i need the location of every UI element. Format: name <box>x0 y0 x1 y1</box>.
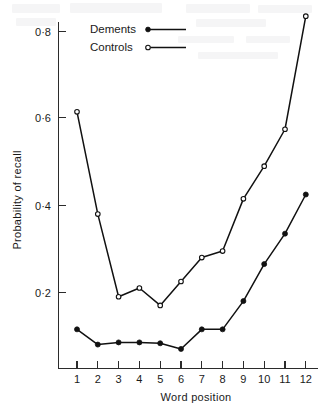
legend: Dements Controls <box>90 23 186 53</box>
y-tick-label-0-6: 0·6 <box>35 112 51 124</box>
data-point-dements-8 <box>220 327 225 332</box>
data-point-controls-3 <box>116 294 121 299</box>
x-tick-label-8: 8 <box>220 373 226 385</box>
data-point-controls-2 <box>96 212 101 217</box>
y-tick-label-0-8: 0·8 <box>35 26 51 38</box>
x-tick-label-7: 7 <box>199 373 205 385</box>
y-axis: 0·8 0·6 0·4 0·2 Probability of recall <box>11 22 66 369</box>
data-point-dements-6 <box>179 346 184 351</box>
x-tick-label-6: 6 <box>178 373 184 385</box>
data-point-controls-9 <box>241 197 246 202</box>
x-tick-label-5: 5 <box>157 373 163 385</box>
series-line-controls <box>77 16 306 305</box>
y-tick-label-0-2: 0·2 <box>35 287 51 299</box>
data-point-dements-7 <box>199 327 204 332</box>
legend-marker-dements-filled-circle-icon <box>146 27 151 32</box>
x-tick-label-11: 11 <box>279 373 290 385</box>
data-point-controls-1 <box>75 110 80 115</box>
legend-label-controls: Controls <box>90 41 133 53</box>
x-axis-title: Word position <box>161 391 232 403</box>
x-tick-label-9: 9 <box>240 373 246 385</box>
x-tick-label-3: 3 <box>116 373 122 385</box>
series-controls <box>75 14 308 308</box>
y-tick-label-0-4: 0·4 <box>35 200 51 212</box>
series-line-dements <box>77 195 306 349</box>
data-point-dements-5 <box>158 341 163 346</box>
figure-container: 0·8 0·6 0·4 0·2 Probability of recall 1 … <box>0 0 325 411</box>
data-point-controls-5 <box>158 303 163 308</box>
data-point-controls-12 <box>304 14 309 19</box>
data-point-dements-10 <box>262 262 267 267</box>
data-point-controls-10 <box>262 164 267 169</box>
data-point-controls-8 <box>220 249 225 254</box>
recall-probability-line-chart: 0·8 0·6 0·4 0·2 Probability of recall 1 … <box>0 0 325 411</box>
y-axis-title: Probability of recall <box>11 150 23 249</box>
x-axis: 1 2 3 4 5 6 7 8 9 10 11 12 Word position <box>59 361 319 403</box>
data-point-controls-7 <box>200 255 205 260</box>
x-tick-label-2: 2 <box>95 373 101 385</box>
data-point-dements-3 <box>116 340 121 345</box>
x-tick-label-1: 1 <box>74 373 80 385</box>
legend-marker-controls-open-circle-icon <box>146 45 151 50</box>
x-tick-label-10: 10 <box>258 373 270 385</box>
legend-label-dements: Dements <box>90 23 136 35</box>
data-point-dements-12 <box>303 192 308 197</box>
data-series-layer <box>75 14 309 352</box>
data-point-dements-9 <box>241 299 246 304</box>
data-point-dements-11 <box>283 231 288 236</box>
series-dements <box>75 192 309 351</box>
data-point-controls-11 <box>283 127 288 132</box>
data-point-dements-1 <box>75 327 80 332</box>
data-point-controls-6 <box>179 279 184 284</box>
data-point-dements-4 <box>137 340 142 345</box>
x-tick-label-12: 12 <box>300 373 312 385</box>
x-tick-label-4: 4 <box>136 373 142 385</box>
data-point-dements-2 <box>95 342 100 347</box>
data-point-controls-4 <box>137 286 142 291</box>
